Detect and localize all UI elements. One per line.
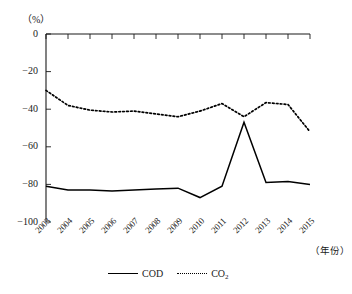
y-tick-label--100: −100: [8, 216, 38, 227]
plot-frame: [46, 34, 310, 222]
chart-legend: COD CO2: [108, 268, 229, 279]
y-tick-label-0: 0: [8, 28, 38, 39]
legend-line-solid-icon: [108, 271, 138, 277]
legend-label-co2-subscript: 2: [225, 273, 229, 281]
y-tick-label--40: −40: [8, 103, 38, 114]
y-tick-label--80: −80: [8, 178, 38, 189]
y-tick-label--20: −20: [8, 65, 38, 76]
series-line-COD: [46, 122, 310, 197]
chart-plot-svg: [0, 0, 352, 294]
legend-label-cod: COD: [142, 268, 163, 279]
x-axis-ticks: [46, 34, 310, 39]
series-lines: [46, 90, 310, 197]
y-axis-ticks: [46, 34, 51, 222]
legend-label-co2: CO2: [211, 268, 228, 279]
series-line-CO2: [46, 90, 310, 131]
legend-item-co2: CO2: [177, 268, 228, 279]
legend-item-cod: COD: [108, 268, 163, 279]
legend-line-dotted-icon: [177, 271, 207, 277]
x-axis-title: （年份）: [310, 243, 350, 257]
y-tick-label--60: −60: [8, 140, 38, 151]
legend-label-co2-main: CO: [211, 268, 225, 279]
chart-container: （%） 0−20−40−60−80−100 200320042005200620…: [0, 0, 352, 294]
